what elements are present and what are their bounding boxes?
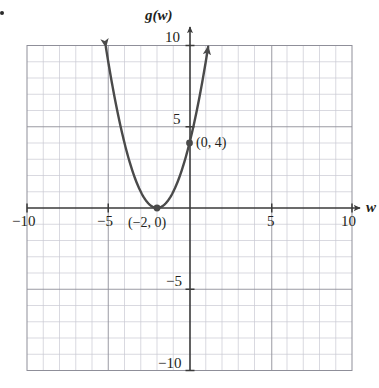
x-tick-label--5: −5 (97, 214, 113, 229)
y-tick-label-10: 10 (165, 30, 180, 45)
y-tick-label-5: 5 (173, 112, 181, 127)
y-axis-label: g(w) (145, 8, 173, 23)
x-tick-label-5: 5 (267, 214, 275, 229)
vertex-marker (154, 205, 161, 212)
y-tick-label--10: −10 (158, 356, 181, 371)
point-label-vertex: (−2, 0) (128, 216, 166, 230)
y-tick-label--5: −5 (166, 274, 182, 289)
x-axis-label: w (366, 200, 376, 215)
x-tick-label--10: −10 (12, 214, 35, 229)
point-label-y-intercept: (0, 4) (196, 136, 226, 150)
axes (27, 27, 360, 371)
graph-figure: g(w) w −10 −5 5 10 10 5 −5 −10 (0, 4) (−… (0, 0, 379, 388)
coordinate-plane-svg (0, 0, 379, 388)
x-tick-label-10: 10 (341, 214, 356, 229)
y-intercept-marker (186, 140, 193, 147)
